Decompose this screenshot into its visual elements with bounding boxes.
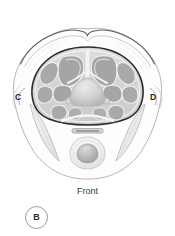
central-septum (86, 49, 90, 78)
plane-label-c: C (15, 93, 21, 102)
lobe-lower-left (51, 105, 67, 120)
anterior-oval-group (70, 137, 105, 169)
plane-label-d: D (150, 93, 156, 102)
lobe-lower-right (108, 105, 124, 120)
sternum-group (72, 129, 103, 134)
anatomical-figure-panel: C D Front B (0, 0, 175, 236)
sternum-bar-core (76, 130, 99, 132)
lobe-lateral-right-mid (122, 86, 138, 103)
panel-identifier-badge: B (25, 206, 48, 229)
orientation-label-front: Front (0, 186, 175, 196)
lobe-lateral-left-mid (37, 86, 53, 103)
panel-identifier-letter: B (33, 213, 40, 222)
anatomy-cross-section-illustration (0, 0, 175, 236)
